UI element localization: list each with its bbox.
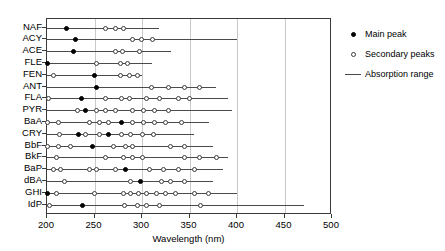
secondary-peak-marker xyxy=(118,61,123,66)
secondary-peak-marker xyxy=(151,132,156,137)
y-axis-tick-label: BbF xyxy=(25,140,42,150)
data-row xyxy=(47,22,330,34)
y-axis-tick-label: GHI xyxy=(25,187,42,197)
secondary-peak-marker xyxy=(137,49,142,54)
main-peak-marker xyxy=(119,120,124,125)
secondary-peak-marker xyxy=(197,155,202,160)
absorption-range-line xyxy=(47,63,152,64)
secondary-peak-marker xyxy=(192,167,197,172)
x-axis-tick-label: 400 xyxy=(228,219,244,230)
secondary-peak-marker xyxy=(163,191,168,196)
secondary-peak-marker xyxy=(130,120,135,125)
secondary-peak-marker xyxy=(128,179,133,184)
secondary-peak-marker xyxy=(198,203,203,208)
legend-label: Secondary peaks xyxy=(362,49,435,59)
secondary-peak-marker xyxy=(103,96,108,101)
main-peak-marker xyxy=(80,203,85,208)
secondary-peak-marker xyxy=(168,179,173,184)
secondary-peak-marker xyxy=(152,108,157,113)
x-axis-tick xyxy=(46,214,47,218)
x-axis-tick-label: 200 xyxy=(38,219,54,230)
legend: Main peak Secondary peaks Absorption ran… xyxy=(344,24,444,84)
secondary-peak-marker xyxy=(135,73,140,78)
secondary-peak-marker xyxy=(113,49,118,54)
legend-item-absorption-range: Absorption range xyxy=(344,64,444,84)
x-axis-tick-label: 300 xyxy=(133,219,149,230)
secondary-peak-marker xyxy=(113,108,118,113)
y-axis-tick-label: IdP xyxy=(28,199,42,209)
data-row xyxy=(47,116,330,128)
secondary-peak-marker xyxy=(68,144,73,149)
data-row xyxy=(47,81,330,93)
main-peak-marker xyxy=(83,108,88,113)
secondary-peak-marker xyxy=(83,132,88,137)
data-row xyxy=(47,33,330,45)
secondary-peak-marker xyxy=(173,191,178,196)
x-axis-tick xyxy=(94,214,95,218)
secondary-peak-marker xyxy=(130,155,135,160)
data-row xyxy=(47,69,330,81)
main-peak-marker xyxy=(45,191,50,196)
secondary-peak-marker xyxy=(103,26,108,31)
main-peak-marker xyxy=(90,144,95,149)
x-axis-tick-label: 350 xyxy=(181,219,197,230)
absorption-range-line xyxy=(47,122,209,123)
secondary-peak-marker xyxy=(120,49,125,54)
y-axis-labels: NAFACYACEFLEFENANTFLAPYRBaACRYBbFBkFBaPd… xyxy=(0,18,42,214)
secondary-peak-marker xyxy=(103,155,108,160)
secondary-peak-marker xyxy=(150,37,155,42)
secondary-peak-marker xyxy=(152,120,157,125)
y-axis-tick-label: BaP xyxy=(24,163,42,173)
secondary-peak-marker xyxy=(125,61,130,66)
y-axis-tick-label: NAF xyxy=(23,22,42,32)
secondary-peak-marker xyxy=(168,144,173,149)
main-peak-marker xyxy=(106,132,111,137)
secondary-peak-marker xyxy=(128,191,133,196)
secondary-peak-marker xyxy=(140,132,145,137)
secondary-peak-marker xyxy=(139,37,144,42)
secondary-peak-marker xyxy=(176,96,181,101)
secondary-peak-marker xyxy=(87,120,92,125)
secondary-peak-marker xyxy=(182,179,187,184)
data-row xyxy=(47,128,330,140)
y-axis-tick-label: dBA xyxy=(24,175,42,185)
secondary-peak-marker xyxy=(182,144,187,149)
main-peak-marker xyxy=(123,167,128,172)
y-axis-tick-label: FEN xyxy=(23,69,42,79)
secondary-peak-marker xyxy=(187,96,192,101)
main-peak-marker xyxy=(76,132,81,137)
secondary-peak-marker xyxy=(122,203,127,208)
line-segment-icon xyxy=(344,74,362,75)
secondary-peak-marker xyxy=(144,96,149,101)
data-row xyxy=(47,151,330,163)
main-peak-marker xyxy=(138,179,143,184)
y-axis-tick-label: ANT xyxy=(23,81,42,91)
data-row xyxy=(47,140,330,152)
x-axis-tick xyxy=(236,214,237,218)
secondary-peak-marker xyxy=(51,73,56,78)
data-row xyxy=(47,57,330,69)
secondary-peak-marker xyxy=(121,155,126,160)
secondary-peak-marker xyxy=(62,179,67,184)
x-axis-title: Wavelength (nm) xyxy=(46,233,331,244)
secondary-peak-marker xyxy=(166,108,171,113)
secondary-peak-marker xyxy=(179,120,184,125)
y-axis-tick-label: ACE xyxy=(22,45,42,55)
legend-label: Main peak xyxy=(362,29,407,39)
x-axis-tick xyxy=(189,214,190,218)
secondary-peak-marker xyxy=(92,191,97,196)
secondary-peak-marker xyxy=(94,167,99,172)
secondary-peak-marker xyxy=(130,108,135,113)
secondary-peak-marker xyxy=(149,85,154,90)
y-axis-tick-label: BkF xyxy=(25,151,42,161)
secondary-peak-marker xyxy=(113,26,118,31)
absorption-range-line xyxy=(47,87,216,88)
secondary-peak-marker xyxy=(97,120,102,125)
secondary-peak-marker xyxy=(46,96,51,101)
x-axis-tick xyxy=(284,214,285,218)
secondary-peak-marker xyxy=(121,191,126,196)
secondary-peak-marker xyxy=(87,167,92,172)
main-peak-marker xyxy=(94,85,99,90)
secondary-peak-marker xyxy=(54,191,59,196)
main-peak-marker xyxy=(45,61,50,66)
